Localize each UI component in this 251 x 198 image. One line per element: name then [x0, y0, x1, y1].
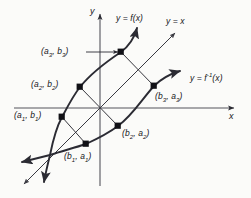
y-axis-label: y	[90, 7, 95, 16]
marker-a3-b3	[118, 49, 124, 55]
pt-mid: , b	[52, 46, 62, 56]
x-axis-label: x	[229, 112, 234, 121]
pt-open: (a	[31, 79, 39, 89]
marker-b2-a2	[115, 123, 121, 129]
curve-label-identity: y = x	[166, 17, 185, 26]
point-label-b1-a1: (b1, a1)	[64, 152, 91, 163]
connector-2	[80, 87, 118, 126]
pt-mid: , b	[25, 110, 35, 120]
point-label-a3-b3: (a3, b3)	[41, 47, 68, 58]
connector-3	[121, 52, 154, 86]
marker-a1-b1	[59, 114, 65, 120]
pt-open: (a	[41, 46, 49, 56]
pt-close: )	[179, 91, 182, 101]
pt-close: )	[88, 151, 91, 161]
curve-label-f-inverse: y = f-1(x)	[190, 72, 223, 82]
pt-mid: , a	[133, 128, 143, 138]
point-label-a2-b2: (a2, b2)	[31, 80, 58, 91]
point-label-a1-b1: (a1, b1)	[14, 111, 41, 122]
curve-f-inverse-tail	[22, 155, 50, 162]
pt-open: (a	[14, 110, 22, 120]
f-inverse-prefix: y = f	[190, 73, 207, 83]
pt-close: )	[38, 110, 41, 120]
point-label-b3-a3: (b3, a3)	[155, 92, 182, 103]
point-label-b2-a2: (b2, a2)	[122, 129, 149, 140]
pt-close: )	[65, 46, 68, 56]
figure-canvas: y x y = f(x) y = x y = f-1(x) (a3, b3) (…	[0, 0, 251, 198]
pt-mid: , a	[166, 91, 176, 101]
axis-group	[14, 14, 234, 186]
pt-close: )	[55, 79, 58, 89]
pt-mid: , b	[42, 79, 52, 89]
curve-f-inverse-path	[50, 71, 180, 155]
pt-close: )	[146, 128, 149, 138]
marker-a2-b2	[77, 84, 83, 90]
marker-b1-a1	[83, 141, 89, 147]
curve-f-tail	[44, 155, 50, 182]
pt-open: (b	[64, 151, 72, 161]
marker-b3-a3	[151, 83, 157, 89]
pt-open: (b	[122, 128, 130, 138]
figure-svg	[0, 0, 251, 198]
pt-open: (b	[155, 91, 163, 101]
f-inverse-suffix: (x)	[212, 73, 222, 83]
pt-mid: , a	[75, 151, 85, 161]
curve-label-f: y = f(x)	[116, 14, 143, 23]
connector-1	[62, 117, 86, 144]
